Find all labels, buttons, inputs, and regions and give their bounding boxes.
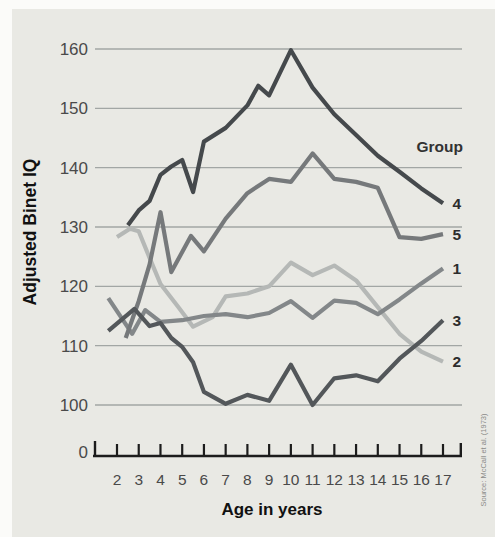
- y-axis-title: Adjusted Binet IQ: [20, 159, 40, 306]
- x-tick-label-14: 14: [369, 471, 387, 488]
- origin-label: 0: [79, 443, 88, 462]
- x-tick-label-7: 7: [221, 471, 230, 488]
- y-tick-label-100: 100: [60, 396, 88, 415]
- series-label-group-5: 5: [453, 226, 462, 243]
- y-tick-label-110: 110: [61, 337, 88, 356]
- iq-chart: 100110120130140150160 234567891011121314…: [0, 0, 495, 537]
- source-note: Source: McCall et al. (1973): [479, 413, 488, 506]
- series-label-group-1: 1: [453, 260, 462, 277]
- legend-title: Group: [417, 138, 464, 155]
- y-tick-label-130: 130: [60, 218, 88, 237]
- x-tick-label-10: 10: [282, 471, 300, 488]
- x-tick-label-9: 9: [265, 471, 274, 488]
- x-tick-label-4: 4: [156, 471, 165, 488]
- x-axis-title: Age in years: [221, 500, 322, 519]
- x-tick-label-6: 6: [200, 471, 209, 488]
- x-tick-label-2: 2: [113, 471, 122, 488]
- iq-trajectories-figure: 100110120130140150160 234567891011121314…: [0, 0, 495, 537]
- x-tick-label-11: 11: [305, 471, 321, 488]
- y-tick-label-150: 150: [60, 99, 88, 118]
- x-tick-label-5: 5: [178, 471, 187, 488]
- y-tick-label-120: 120: [60, 277, 88, 296]
- y-tick-label-160: 160: [60, 40, 88, 59]
- series-label-group-3: 3: [453, 312, 462, 329]
- y-tick-label-140: 140: [60, 159, 88, 178]
- x-tick-label-3: 3: [134, 471, 143, 488]
- series-label-group-4: 4: [453, 195, 462, 212]
- x-tick-label-16: 16: [413, 471, 430, 488]
- x-tick-label-13: 13: [347, 471, 364, 488]
- x-tick-labels: 234567891011121314151617: [113, 471, 452, 488]
- x-tick-label-8: 8: [243, 471, 252, 488]
- x-tick-label-12: 12: [326, 471, 343, 488]
- x-tick-label-17: 17: [434, 471, 451, 488]
- series-label-group-2: 2: [453, 353, 462, 370]
- x-tick-label-15: 15: [391, 471, 408, 488]
